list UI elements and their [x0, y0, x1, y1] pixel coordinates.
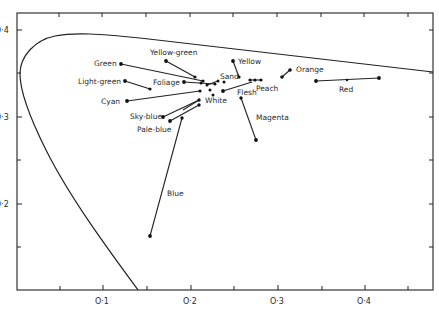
label-yellow: Yellow [237, 57, 261, 66]
label-cyan: Cyan [101, 97, 120, 106]
label-foliage: Foliage [153, 78, 180, 87]
x-label-0.3: O·3 [270, 297, 284, 306]
x-label-0.1: O·1 [95, 297, 109, 306]
label-light-green: Light-green [78, 77, 121, 86]
label-blue: Blue [167, 189, 184, 198]
label-pale-blue: Pale-blue [137, 125, 172, 134]
label-magenta: Magenta [256, 113, 289, 122]
label-yellow-green: Yellow-green [149, 48, 198, 57]
top-ticks [59, 13, 408, 17]
plot-frame [17, 13, 433, 290]
left-ticks [17, 30, 22, 247]
x-label-0.2: O·2 [183, 297, 197, 306]
x-label-0.4: O·4 [357, 297, 371, 306]
label-sky-blue: Sky-blue [130, 112, 162, 121]
y-label-0.4: 0·4 [0, 26, 9, 35]
right-ticks [429, 30, 433, 247]
y-label-0.3: 0·3 [0, 113, 9, 122]
y-label-0.2: 0·2 [0, 200, 9, 209]
label-red: Red [339, 85, 353, 94]
label-peach: Peach [256, 84, 279, 93]
bottom-ticks [60, 285, 408, 290]
label-green: Green [94, 59, 117, 68]
label-sand: Sand [220, 72, 239, 81]
label-orange: Orange [296, 65, 324, 74]
label-white: White [205, 96, 227, 105]
label-flesh: Flesh [237, 88, 257, 97]
chromaticity-chart: O·1 O·2 O·3 O·4 0·4 0·3 0·2 [0, 0, 439, 313]
